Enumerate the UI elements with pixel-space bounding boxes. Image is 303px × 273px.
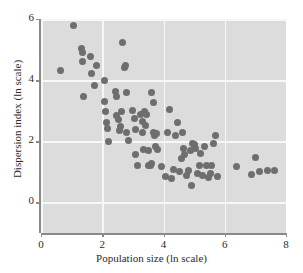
data-point: [117, 123, 124, 130]
data-point: [101, 77, 108, 84]
x-tick-label: 0: [29, 238, 53, 250]
x-tick-label: 6: [213, 238, 237, 250]
x-tick-mark: [225, 234, 226, 237]
data-point: [118, 108, 125, 115]
data-point: [176, 168, 183, 175]
data-point: [201, 143, 208, 150]
data-point: [256, 168, 263, 175]
data-point: [132, 126, 139, 133]
data-point: [174, 119, 181, 126]
data-point: [252, 154, 259, 161]
x-tick-mark: [41, 234, 42, 237]
x-tick-label: 2: [90, 238, 114, 250]
data-point: [93, 62, 100, 69]
data-point: [210, 140, 217, 147]
data-point: [123, 129, 130, 136]
data-point: [79, 49, 86, 56]
gridline-horizontal: [41, 141, 286, 143]
data-point: [164, 129, 171, 136]
data-point: [214, 173, 221, 180]
data-point: [125, 137, 132, 144]
data-point: [248, 171, 255, 178]
data-point: [148, 160, 155, 167]
data-point: [264, 167, 271, 174]
data-point: [148, 89, 155, 96]
data-point: [70, 22, 77, 29]
data-point: [105, 138, 112, 145]
data-point: [142, 122, 149, 129]
data-point: [87, 53, 94, 60]
data-point: [122, 62, 129, 69]
y-tick-mark: [36, 80, 39, 81]
scatter-chart-figure: 02468 0246 Population size (ln scale) Di…: [0, 0, 303, 273]
data-point: [154, 146, 161, 153]
gridline-vertical: [41, 19, 43, 233]
data-point: [188, 182, 195, 189]
data-point: [91, 82, 98, 89]
data-point: [168, 175, 175, 182]
x-axis-label: Population size (ln scale): [0, 252, 303, 264]
x-tick-label: 4: [152, 238, 176, 250]
data-point: [57, 67, 64, 74]
data-point: [88, 70, 95, 77]
plot-area: [41, 19, 286, 233]
data-point: [113, 93, 120, 100]
data-point: [172, 132, 179, 139]
y-tick-mark: [36, 141, 39, 142]
data-point: [102, 108, 109, 115]
data-point: [145, 147, 152, 154]
data-point: [115, 116, 122, 123]
data-point: [132, 151, 139, 158]
data-point: [80, 93, 87, 100]
gridline-horizontal: [41, 80, 286, 82]
data-point: [197, 150, 204, 157]
gridline-vertical: [225, 19, 227, 233]
data-point: [104, 125, 111, 132]
data-point: [185, 167, 192, 174]
y-axis-line: [39, 19, 41, 233]
data-point: [129, 107, 136, 114]
data-point: [271, 167, 278, 174]
data-point: [123, 89, 130, 96]
data-point: [139, 129, 146, 136]
y-axis-label: Dispersion index (ln scale): [11, 9, 23, 229]
gridline-horizontal: [41, 202, 286, 204]
y-tick-mark: [36, 19, 39, 20]
data-point: [212, 132, 219, 139]
data-point: [179, 129, 186, 136]
gridline-horizontal: [41, 19, 286, 21]
x-tick-mark: [286, 234, 287, 237]
data-point: [153, 130, 160, 137]
data-point: [101, 98, 108, 105]
y-tick-mark: [36, 202, 39, 203]
data-point: [143, 111, 150, 118]
data-point: [208, 162, 215, 169]
x-tick-label: 8: [274, 238, 298, 250]
data-point: [233, 163, 240, 170]
x-tick-mark: [102, 234, 103, 237]
data-point: [134, 162, 141, 169]
data-point: [166, 106, 173, 113]
gridline-vertical: [164, 19, 166, 233]
data-point: [150, 99, 157, 106]
data-point: [119, 39, 126, 46]
data-point: [79, 58, 86, 65]
data-point: [207, 170, 214, 177]
x-tick-mark: [164, 234, 165, 237]
